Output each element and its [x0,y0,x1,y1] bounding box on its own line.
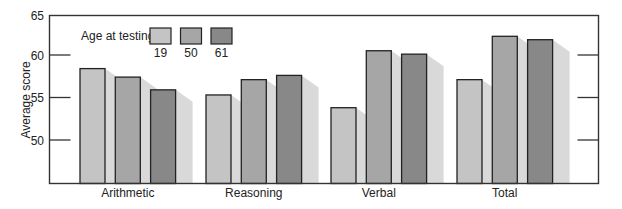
x-category-label: Reasoning [225,186,282,200]
legend-swatch-50 [181,28,202,44]
bar-verbal-19 [331,108,356,184]
bar-total-19 [457,80,482,184]
legend-title: Age at testing: [81,29,158,43]
bar-shadow [427,54,444,183]
bar-total-61 [528,40,553,184]
bar-arithmetic-19 [80,69,105,184]
chart-canvas: 50556065 ArithmeticReasoningVerbalTotal … [0,0,622,209]
y-tick-label: 60 [31,49,45,63]
bar-total-50 [492,36,517,183]
legend-label-61: 61 [215,46,229,60]
x-category-label: Arithmetic [101,186,154,200]
y-axis-label: Average score [19,61,33,138]
bar-verbal-61 [402,54,427,183]
legend-swatch-19 [150,28,171,44]
bar-reasoning-61 [277,75,302,183]
x-category-label: Total [492,186,517,200]
bar-reasoning-19 [206,95,231,184]
bar-arithmetic-50 [115,77,140,183]
bar-shadow [176,90,193,184]
bar-arithmetic-61 [151,90,176,184]
legend: Age at testing: 195061 [81,28,232,60]
bar-chart: 50556065 ArithmeticReasoningVerbalTotal … [0,0,622,209]
legend-label-19: 19 [154,46,168,60]
x-category-label: Verbal [362,186,396,200]
bar-shadow [302,75,319,183]
bar-shadow [553,40,570,184]
bar-reasoning-50 [241,80,266,184]
legend-swatch-61 [211,28,232,44]
x-axis: ArithmeticReasoningVerbalTotal [101,186,517,200]
legend-label-50: 50 [184,46,198,60]
bar-verbal-50 [366,51,391,184]
y-tick-label: 65 [31,9,45,23]
